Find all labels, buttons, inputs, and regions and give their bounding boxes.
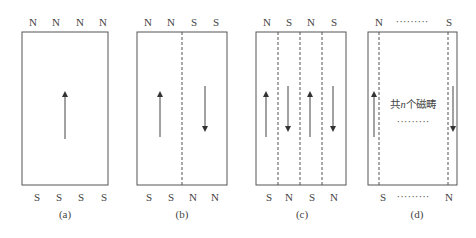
bottom-label: N (211, 191, 219, 203)
bottom-label: S (380, 191, 386, 203)
top-label: N (29, 16, 37, 28)
bottom-label: S (34, 191, 40, 203)
caption: (c) (296, 208, 309, 221)
domain-count-label: 共n个磁畴 (390, 98, 436, 110)
top-label: S (446, 16, 452, 28)
panel-c: N S N S S N S N (c) (256, 16, 346, 221)
bottom-label: N (285, 191, 293, 203)
top-label: N (144, 16, 152, 28)
top-label: S (286, 16, 292, 28)
caption: (d) (411, 208, 424, 221)
center-ellipsis: ········· (397, 115, 430, 127)
bottom-label: N (189, 191, 197, 203)
magnetic-domain-diagram: N N N N S S S S (a) N N S S S S N N (b) … (0, 0, 476, 238)
bottom-label: S (101, 191, 107, 203)
bottom-label: S (309, 191, 315, 203)
top-label: S (213, 16, 219, 28)
panel-a: N N N N S S S S (a) (22, 16, 108, 221)
top-label: S (331, 16, 337, 28)
top-label: N (307, 16, 315, 28)
bottom-label: N (445, 191, 453, 203)
bottom-ellipsis: ········· (397, 190, 430, 202)
top-label: N (167, 16, 175, 28)
top-label: N (99, 16, 107, 28)
bottom-label: S (266, 191, 272, 203)
bottom-label: S (78, 191, 84, 203)
top-label: N (375, 16, 383, 28)
caption: (a) (59, 208, 72, 221)
top-ellipsis: ········· (396, 15, 429, 27)
top-label: N (52, 16, 60, 28)
bottom-label: S (168, 191, 174, 203)
top-label: N (76, 16, 84, 28)
bottom-label: N (330, 191, 338, 203)
panel-b: N N S S S S N N (b) (137, 16, 227, 221)
top-label: S (191, 16, 197, 28)
top-label: N (263, 16, 271, 28)
bottom-label: S (56, 191, 62, 203)
bottom-label: S (146, 191, 152, 203)
caption: (b) (176, 208, 189, 221)
panel-d: N ········· S 共n个磁畴 ········· S ········… (368, 15, 457, 221)
